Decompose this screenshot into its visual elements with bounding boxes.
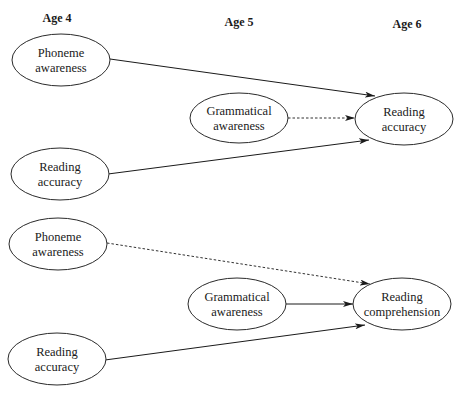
node-p2-grammatical: Grammaticalawareness [188,278,286,330]
node-p1-phoneme: Phonemeawareness [12,34,110,86]
node-label: awareness [32,245,83,259]
solid-arrow [108,140,369,174]
node-label: comprehension [364,305,441,319]
node-label: Reading [39,160,81,174]
node-label: accuracy [38,175,83,189]
path-diagram: Age 4Age 5Age 6 PhonemeawarenessReadinga… [0,0,464,394]
node-p1-grammatical: Grammaticalawareness [190,93,288,143]
solid-arrow [110,59,375,96]
node-p1-outcome: Readingaccuracy [355,93,453,145]
node-label: Reading [381,290,423,304]
node-label: accuracy [35,360,80,374]
node-label: Grammatical [204,290,270,304]
node-label: Reading [383,105,425,119]
node-p2-reading: Readingaccuracy [8,333,106,385]
node-label: awareness [35,61,86,75]
age-label: Age 6 [393,17,422,31]
node-p1-reading: Readingaccuracy [11,148,109,200]
node-label: awareness [213,119,264,133]
node-label: Phoneme [38,46,85,60]
node-label: Grammatical [206,104,272,118]
node-p2-outcome: Readingcomprehension [353,278,451,330]
age-labels: Age 4Age 5Age 6 [43,11,422,31]
node-label: accuracy [382,120,427,134]
node-label: Reading [36,345,78,359]
node-label: Phoneme [35,230,82,244]
age-label: Age 5 [225,15,254,29]
age-label: Age 4 [43,11,72,25]
node-label: awareness [211,305,262,319]
node-p2-phoneme: Phonemeawareness [9,218,107,270]
nodes: PhonemeawarenessReadingaccuracyGrammatic… [8,34,453,385]
